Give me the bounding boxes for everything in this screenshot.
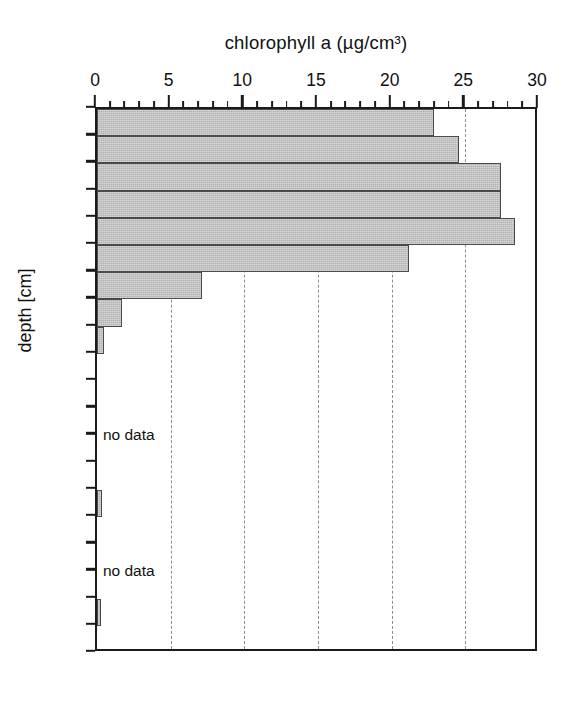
y-tick-mark-18 (86, 595, 95, 597)
bar-depth-7-8 (97, 299, 122, 326)
y-tick-mark-11 (86, 405, 95, 407)
y-tick-mark-4 (86, 215, 95, 217)
y-tick-mark-15 (86, 514, 95, 516)
annotation-no-data-17: no data (103, 562, 155, 580)
y-tick-mark-16 (86, 541, 95, 543)
y-tick-mark-8 (86, 323, 95, 325)
bar-depth-5-6 (97, 245, 409, 272)
y-tick-mark-10 (86, 378, 95, 380)
y-tick-mark-17 (86, 568, 95, 570)
bar-depth-6-7 (97, 272, 202, 299)
x-axis-ticks (95, 94, 541, 108)
y-tick-mark-2 (86, 160, 95, 162)
x-tick-label-25: 25 (454, 70, 473, 91)
y-tick-mark-19 (86, 623, 95, 625)
y-axis-title: depth [cm] (15, 231, 36, 391)
y-tick-mark-3 (86, 187, 95, 189)
annotation-no-data-12: no data (103, 426, 155, 444)
y-tick-mark-5 (86, 242, 95, 244)
x-tick-label-30: 30 (527, 70, 546, 91)
x-tick-label-5: 5 (164, 70, 174, 91)
y-tick-mark-1 (86, 133, 95, 135)
y-tick-mark-0 (86, 106, 95, 108)
bar-depth-1-2 (97, 136, 459, 163)
y-tick-mark-14 (86, 487, 95, 489)
bar-depth-4-5 (97, 218, 515, 245)
chart-title: chlorophyll a (µg/cm³) (95, 32, 537, 54)
chlorophyll-depth-profile-chart: chlorophyll a (µg/cm³) 051015202530 no d… (0, 0, 576, 701)
bar-depth-2-3 (97, 163, 501, 190)
y-tick-mark-7 (86, 296, 95, 298)
y-tick-mark-9 (86, 351, 95, 353)
y-tick-mark-12 (86, 432, 95, 434)
bar-depth-0-1 (97, 109, 434, 136)
y-tick-mark-6 (86, 269, 95, 271)
bar-depth-3-4 (97, 191, 501, 218)
x-tick-label-20: 20 (380, 70, 399, 91)
x-tick-label-15: 15 (306, 70, 325, 91)
y-tick-mark-20 (86, 650, 95, 652)
y-tick-mark-13 (86, 459, 95, 461)
plot-area: no datano data (95, 107, 537, 651)
x-tick-label-10: 10 (233, 70, 252, 91)
